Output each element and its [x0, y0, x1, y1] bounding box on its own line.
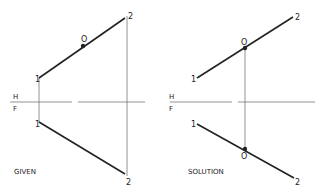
label-top-2: 2 — [128, 12, 133, 21]
label-fold-f: F — [13, 105, 17, 113]
label-top-o: O — [81, 35, 87, 44]
point-o-front — [243, 147, 247, 151]
top-view-line — [39, 18, 125, 78]
label-top-2: 2 — [295, 13, 300, 22]
given-figure: 1 2 O 1 2 H F GIVEN — [10, 12, 145, 187]
point-o — [81, 44, 85, 48]
projection-diagram: 1 2 O 1 2 H F GIVEN 1 2 O 1 2 O H F SOLU… — [0, 0, 324, 188]
label-fold-f: F — [169, 105, 173, 113]
caption-solution: SOLUTION — [188, 168, 224, 176]
label-top-o: O — [241, 38, 247, 47]
label-bot-o: O — [241, 152, 247, 161]
label-bot-2: 2 — [295, 178, 300, 187]
label-fold-h: H — [169, 93, 174, 101]
caption-given: GIVEN — [14, 168, 36, 176]
label-bot-1: 1 — [35, 120, 40, 129]
solution-figure: 1 2 O 1 2 O H F SOLUTION — [169, 13, 315, 187]
front-view-line — [39, 122, 125, 174]
label-bot-1: 1 — [191, 120, 196, 129]
label-bot-2: 2 — [126, 178, 131, 187]
label-top-1: 1 — [35, 75, 40, 84]
label-fold-h: H — [13, 93, 18, 101]
label-top-1: 1 — [191, 75, 196, 84]
